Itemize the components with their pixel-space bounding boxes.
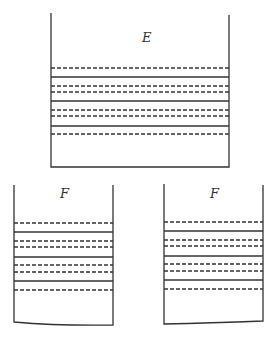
label-f-right: F [209,186,220,201]
container-f-left [14,185,113,325]
container-f-right [164,184,263,324]
diagram-canvas: E F F [0,0,278,339]
container-e [51,13,229,167]
label-f-left: F [59,186,70,201]
label-e: E [141,30,152,45]
